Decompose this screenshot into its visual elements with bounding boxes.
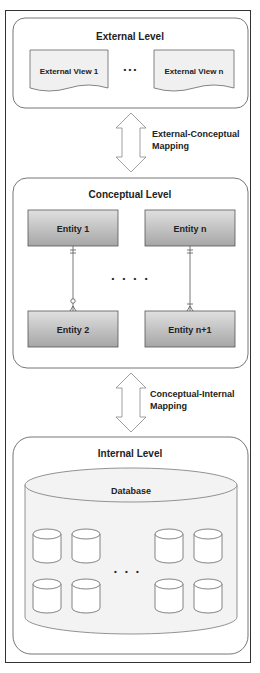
svg-text:Entity n+1: Entity n+1 xyxy=(168,325,211,335)
external-view-1-label: External View 1 xyxy=(40,67,99,76)
three-level-architecture-diagram: External Level External View 1 • • • Ext… xyxy=(0,0,260,673)
mapping-2-line2: Mapping xyxy=(150,401,187,411)
external-view-n-label: External View n xyxy=(165,67,224,76)
conceptual-level-title: Conceptual Level xyxy=(89,189,172,200)
svg-text:Entity 2: Entity 2 xyxy=(57,325,90,335)
external-views-ellipsis: • • • xyxy=(124,65,137,74)
mapping-2-line1: Conceptual-Internal xyxy=(150,389,235,399)
external-level-panel: External Level External View 1 • • • Ext… xyxy=(13,18,248,108)
external-conceptual-mapping-arrow xyxy=(116,113,146,172)
external-view-n: External View n xyxy=(154,50,234,91)
entity-1: Entity 1 xyxy=(28,210,118,246)
conceptual-level-panel: Conceptual Level Entity 1 Entity n Entit… xyxy=(13,178,248,368)
entity-n: Entity n xyxy=(145,210,235,246)
conceptual-internal-mapping-arrow xyxy=(116,373,146,432)
entity-2: Entity 2 xyxy=(28,311,118,347)
storage-cylinder-icon xyxy=(33,579,61,613)
mapping-1-line1: External-Conceptual xyxy=(152,129,240,139)
internal-level-panel: Internal Level Database • • • xyxy=(13,437,248,654)
storage-cylinder-icon xyxy=(72,529,100,563)
storage-cylinder-icon xyxy=(33,529,61,563)
storage-cylinder-icon xyxy=(72,579,100,613)
storage-cylinder-icon xyxy=(194,579,222,613)
storage-cylinder-icon xyxy=(155,579,183,613)
mapping-1-line2: Mapping xyxy=(152,141,189,151)
external-view-1: External View 1 xyxy=(30,50,108,91)
storage-cylinder-icon xyxy=(155,529,183,563)
storage-cylinder-icon xyxy=(194,529,222,563)
entity-n-plus-1: Entity n+1 xyxy=(145,311,235,347)
database-label: Database xyxy=(111,486,151,496)
external-level-title: External Level xyxy=(96,31,164,42)
entities-ellipsis: • • • • xyxy=(112,274,151,283)
storage-ellipsis: • • • xyxy=(114,567,142,576)
svg-text:Entity 1: Entity 1 xyxy=(57,224,90,234)
internal-level-title: Internal Level xyxy=(98,448,163,459)
svg-text:Entity n: Entity n xyxy=(174,224,207,234)
